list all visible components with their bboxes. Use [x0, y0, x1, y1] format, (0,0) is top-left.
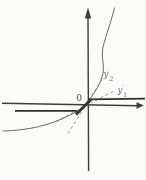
- solution-curve-lower: [3, 111, 78, 131]
- slope-label-y2: y′2: [103, 68, 114, 83]
- origin-label: 0: [76, 93, 82, 103]
- x-axis: [2, 103, 138, 106]
- slope-label-y2-sub: 2: [108, 75, 113, 83]
- solution-curve-upper: [89, 8, 115, 101]
- x-axis-arrowhead: [137, 102, 145, 109]
- slope-label-y1: y′1: [117, 84, 128, 99]
- y-axis-arrowhead: [85, 8, 91, 19]
- ode-solution-diagram: 0 y′2 y′1: [0, 0, 146, 180]
- slope-label-y2-prime: ′: [108, 68, 110, 75]
- thick-branch-right: [89, 99, 145, 100]
- y-axis: [88, 16, 89, 171]
- slope-label-y1-prime: ′: [122, 84, 124, 91]
- slope-label-y1-sub: 1: [123, 91, 127, 99]
- diagram-canvas: 0 y′2 y′1: [0, 0, 146, 180]
